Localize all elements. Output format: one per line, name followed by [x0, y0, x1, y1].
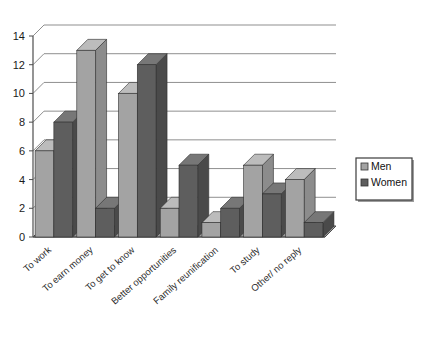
legend-swatch [361, 179, 368, 186]
bar-front-face [304, 223, 323, 237]
legend-swatch [361, 163, 368, 170]
bar-front-face [262, 194, 281, 237]
bar-front-face [54, 122, 73, 237]
bar-front-face [77, 50, 96, 237]
y-axis-tick-label: 2 [19, 202, 25, 214]
bar-front-face [179, 165, 198, 237]
bar-front-face [244, 165, 263, 237]
y-axis-tick-label: 8 [19, 116, 25, 128]
bar-front-face [35, 151, 54, 237]
chart-container: 02468101214 To workTo earn moneyTo get t… [0, 0, 421, 348]
y-axis-tick-label: 6 [19, 145, 25, 157]
y-axis-tick-label: 12 [13, 59, 25, 71]
bar-chart-3d: 02468101214 To workTo earn moneyTo get t… [0, 0, 421, 348]
legend-label: Men [371, 160, 392, 172]
bar-front-face [160, 208, 179, 237]
y-axis-tick-label: 14 [13, 30, 25, 42]
bar-front-face [202, 223, 221, 237]
bar-front-face [96, 208, 115, 237]
y-axis-tick-label: 4 [19, 174, 25, 186]
bar-front-face [221, 208, 240, 237]
chart-legend: MenWomen [356, 158, 414, 202]
legend-label: Women [371, 176, 407, 188]
y-axis-tick-label: 0 [19, 231, 25, 243]
y-axis-tick-label: 10 [13, 87, 25, 99]
bar-front-face [137, 65, 156, 237]
bar-front-face [285, 180, 304, 237]
bar-front-face [119, 93, 138, 237]
